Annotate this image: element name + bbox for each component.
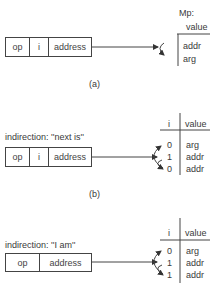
row-c-1-value: addr bbox=[186, 258, 204, 268]
instruction-box-c: op address bbox=[5, 253, 92, 272]
value-header-a: value bbox=[186, 22, 208, 32]
field-op: op bbox=[6, 254, 40, 271]
row-c-2-value: addr bbox=[186, 270, 204, 280]
caption-b: (b) bbox=[89, 189, 100, 199]
row-c-2-i: 1 bbox=[167, 270, 172, 280]
field-op: op bbox=[6, 38, 30, 56]
row-a-1: arg bbox=[183, 54, 196, 64]
value-header-c: value bbox=[185, 228, 207, 238]
caption-a: (a) bbox=[89, 79, 100, 89]
i-header-b: i bbox=[168, 119, 170, 129]
field-address: address bbox=[49, 148, 91, 166]
i-header-c: i bbox=[168, 228, 170, 238]
row-b-0-value: arg bbox=[186, 140, 199, 150]
instruction-box-b: op i address bbox=[5, 147, 92, 167]
row-b-2-value: addr bbox=[186, 164, 204, 174]
indirection-label-c: indirection: ''I am'' bbox=[5, 240, 75, 250]
instruction-box-a: op i address bbox=[5, 37, 92, 57]
field-i: i bbox=[30, 38, 49, 56]
value-header-b: value bbox=[185, 119, 207, 129]
field-op: op bbox=[6, 148, 30, 166]
row-a-0: addr bbox=[183, 41, 201, 51]
memory-label: Mp: bbox=[179, 8, 194, 18]
row-c-1-i: 1 bbox=[167, 258, 172, 268]
field-i: i bbox=[30, 148, 49, 166]
row-b-1-i: 1 bbox=[167, 152, 172, 162]
field-address: address bbox=[49, 38, 91, 56]
row-b-1-value: addr bbox=[186, 152, 204, 162]
row-c-0-i: 0 bbox=[167, 246, 172, 256]
field-address: address bbox=[40, 254, 91, 271]
row-c-0-value: arg bbox=[186, 246, 199, 256]
indirection-label-b: indirection: ''next is'' bbox=[5, 132, 84, 142]
row-b-2-i: 0 bbox=[167, 164, 172, 174]
row-b-0-i: 0 bbox=[167, 140, 172, 150]
